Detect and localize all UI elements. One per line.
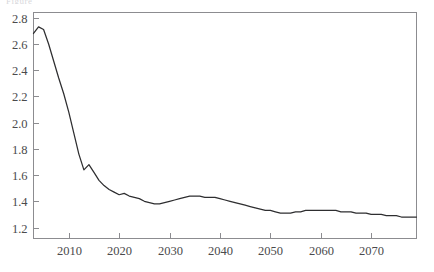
x-tick-label-2020: 2020 xyxy=(107,244,132,258)
x-tick-label-2030: 2030 xyxy=(158,244,183,258)
y-tick-label-1.8: 1.8 xyxy=(12,143,28,157)
series-line-0 xyxy=(34,27,417,217)
x-tick-label-2070: 2070 xyxy=(359,244,384,258)
y-tick-label-2.6: 2.6 xyxy=(12,38,28,52)
x-tick-label-2010: 2010 xyxy=(57,244,82,258)
y-tick-label-2.0: 2.0 xyxy=(12,117,28,131)
y-axis-labels: 1.21.41.61.82.02.22.42.62.8 xyxy=(12,12,28,236)
y-tick-label-2.8: 2.8 xyxy=(12,12,28,26)
plot-frame xyxy=(34,13,417,239)
x-axis-ticks xyxy=(70,233,372,238)
line-chart-plot: 1.21.41.61.82.02.22.42.62.8 201020202030… xyxy=(0,0,434,272)
y-tick-label-1.6: 1.6 xyxy=(12,169,28,183)
x-tick-label-2060: 2060 xyxy=(309,244,334,258)
y-tick-label-1.4: 1.4 xyxy=(12,195,28,209)
data-series-group xyxy=(34,27,417,217)
chart-figure: Figure 1.21.41.61.82.02.22.42.62.8 20102… xyxy=(0,0,434,272)
x-axis-labels: 2010202020302040205020602070 xyxy=(57,244,384,258)
x-tick-label-2040: 2040 xyxy=(208,244,233,258)
x-tick-label-2050: 2050 xyxy=(258,244,283,258)
y-tick-label-2.4: 2.4 xyxy=(12,64,28,78)
y-tick-label-2.2: 2.2 xyxy=(12,90,28,104)
y-axis-ticks xyxy=(34,19,39,229)
y-tick-label-1.2: 1.2 xyxy=(12,222,28,236)
